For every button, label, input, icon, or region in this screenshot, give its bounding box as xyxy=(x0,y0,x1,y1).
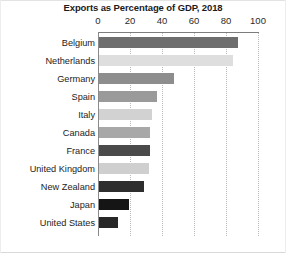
category-label: Canada xyxy=(63,128,95,138)
bar xyxy=(99,37,238,48)
bar xyxy=(99,181,144,192)
bar xyxy=(99,109,152,120)
bar xyxy=(99,199,129,210)
x-axis-line xyxy=(98,32,259,33)
bar xyxy=(99,73,174,84)
x-tick-label-0: 0 xyxy=(95,15,100,26)
bar xyxy=(99,217,118,228)
frame-border-bottom xyxy=(0,252,286,253)
category-label: New Zealand xyxy=(41,182,95,192)
frame-border-top xyxy=(0,0,286,1)
x-tick-label-20: 20 xyxy=(125,15,136,26)
category-label: United States xyxy=(40,218,95,228)
category-label: Netherlands xyxy=(45,56,95,66)
x-tick-label-80: 80 xyxy=(221,15,232,26)
bar xyxy=(99,91,157,102)
gridline-100 xyxy=(258,33,259,236)
bar xyxy=(99,55,233,66)
category-label: Spain xyxy=(72,92,96,102)
category-label: Italy xyxy=(78,110,95,120)
bar xyxy=(99,127,150,138)
chart-container: Exports as Percentage of GDP, 2018 02040… xyxy=(0,0,286,262)
frame-border-right xyxy=(285,0,286,253)
category-label: Germany xyxy=(57,74,95,84)
x-tick-label-100: 100 xyxy=(250,15,266,26)
category-label: Japan xyxy=(70,200,95,210)
category-label: United Kingdom xyxy=(30,164,95,174)
x-tick-label-40: 40 xyxy=(157,15,168,26)
category-label: Belgium xyxy=(62,38,95,48)
bar xyxy=(99,145,150,156)
bar xyxy=(99,163,149,174)
chart-title: Exports as Percentage of GDP, 2018 xyxy=(0,2,286,13)
frame-border-left xyxy=(0,0,1,253)
category-label: France xyxy=(66,146,95,156)
x-tick-label-60: 60 xyxy=(189,15,200,26)
